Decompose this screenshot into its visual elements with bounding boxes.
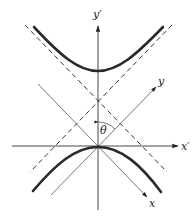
- y-prime-label: y′: [92, 8, 102, 21]
- rotated-x-axis: [38, 84, 147, 197]
- hyperbola-lower-branch: [33, 147, 161, 192]
- asymptote-2: [30, 25, 172, 172]
- theta-label: θ: [100, 124, 107, 137]
- hyperbola-upper-branch: [34, 27, 163, 71]
- rotated-y-axis: [51, 87, 156, 195]
- rotated-x-label: x: [149, 197, 156, 210]
- rotated-y-label: y: [157, 75, 165, 88]
- hyperbola-diagram: y′ x′ y x θ: [0, 0, 196, 221]
- x-prime-label: x′: [181, 140, 190, 153]
- asymptote-1: [25, 25, 167, 172]
